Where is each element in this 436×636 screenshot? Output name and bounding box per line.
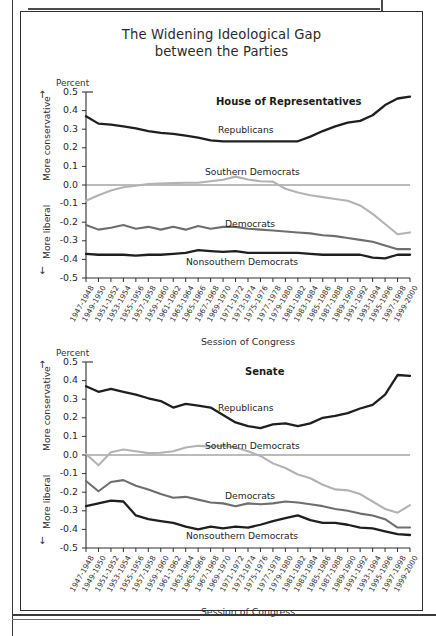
y-tick-label: -0.3 [52,504,78,515]
y-tick-label: -0.3 [52,234,78,245]
chart-panel-senate: Percent0.50.40.30.20.10.0-0.1-0.2-0.3-0.… [20,340,423,605]
panel-title-senate: Senate [245,366,284,377]
series-label-democrats: Democrats [225,490,275,501]
figure-title: The Widening Ideological Gap between the… [20,26,423,60]
series-label-republicans: Republicans [218,402,274,413]
more-conservative-arrow-icon: ↑ [38,360,46,370]
chart-panel-house: Percent0.50.40.30.20.10.0-0.1-0.2-0.3-0.… [20,70,423,335]
x-axis-title: Session of Congress [86,606,410,617]
y-tick-label: 0.0 [52,179,78,190]
series-label-southern_democrats: Southern Democrats [205,440,300,451]
y-tick-label: -0.2 [52,216,78,227]
y-tick-label: 0.2 [52,411,78,422]
series-label-democrats: Democrats [225,218,275,229]
y-tick-label: -0.5 [52,272,78,283]
y-tick-label: -0.1 [52,197,78,208]
y-tick-label: -0.5 [52,542,78,553]
y-tick-label: 0.2 [52,141,78,152]
y-axis-label-more-conservative: More conservative [41,97,52,182]
y-tick-label: -0.2 [52,486,78,497]
page-bottom-rule-secondary [12,619,200,620]
y-tick-label: 0.3 [52,123,78,134]
more-liberal-arrow-icon: ↓ [38,266,46,276]
y-tick-label: -0.4 [52,523,78,534]
y-tick-label: 0.3 [52,393,78,404]
y-axis-label-more-liberal: More liberal [41,475,52,529]
page-top-rule [28,8,380,10]
y-axis-label-more-liberal: More liberal [41,205,52,259]
y-tick-label: 0.5 [52,356,78,367]
series-line-democrats [86,480,410,527]
figure-page: The Widening Ideological Gap between the… [0,0,436,636]
panel-title-house: House of Representatives [216,96,361,107]
more-liberal-arrow-icon: ↓ [38,536,46,546]
y-tick-label: -0.1 [52,467,78,478]
y-tick-label: 0.4 [52,104,78,115]
y-tick-label: -0.4 [52,253,78,264]
page-left-rule [12,0,13,636]
y-tick-label: 0.4 [52,374,78,385]
y-tick-label: 0.5 [52,86,78,97]
series-label-republicans: Republicans [218,124,274,135]
more-conservative-arrow-icon: ↑ [38,90,46,100]
y-axis-label-more-conservative: More conservative [41,367,52,452]
figure-title-line1: The Widening Ideological Gap [122,27,321,42]
figure-title-line2: between the Parties [20,43,423,60]
series-label-southern_democrats: Southern Democrats [205,166,300,177]
series-label-nonsouthern_democrats: Nonsouthern Democrats [186,530,298,541]
y-tick-label: 0.0 [52,449,78,460]
series-label-nonsouthern_democrats: Nonsouthern Democrats [186,256,298,267]
y-tick-label: 0.1 [52,430,78,441]
y-tick-label: 0.1 [52,160,78,171]
